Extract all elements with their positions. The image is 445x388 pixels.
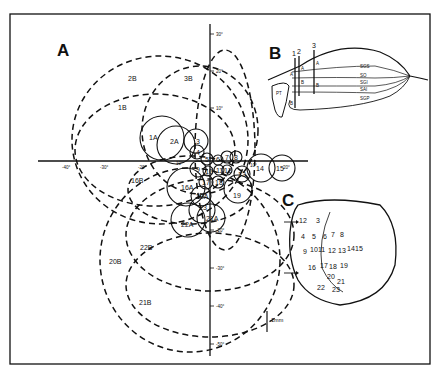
- field-label: 16B: [131, 177, 144, 184]
- tectum-bottom: [289, 76, 410, 110]
- track-label: 1: [292, 50, 296, 57]
- field-label: 16A: [181, 184, 194, 191]
- site-label: 6: [323, 233, 327, 240]
- field-label: 22B: [140, 244, 153, 251]
- track-label: 3: [312, 42, 316, 49]
- site-label: 2: [303, 217, 307, 224]
- field-label: 20A: [196, 193, 209, 200]
- pt-label: PT: [276, 91, 282, 96]
- site-mark: B: [290, 101, 293, 106]
- field-label: 1A: [149, 134, 158, 141]
- site-label: 3: [316, 217, 320, 224]
- site-label: 17: [320, 262, 328, 269]
- field-label: 22A: [181, 221, 194, 228]
- panel-c: C 1 2 3 4 5 6 7 8 9 10 11 12 13 14 15 16…: [267, 191, 396, 332]
- field-label: 6: [216, 156, 220, 163]
- field-label: 2A: [170, 138, 179, 145]
- site-label: 20: [327, 273, 335, 280]
- layer-label: SGI: [360, 80, 368, 85]
- scale-bar-label: 1mm: [271, 317, 284, 323]
- layer-label: SO: [360, 73, 367, 78]
- field-label: 21B: [139, 299, 152, 306]
- field-label: 15: [276, 165, 284, 172]
- site-label: 15: [355, 245, 363, 252]
- layer-label: SGP: [360, 96, 370, 101]
- field-label: 5: [205, 156, 209, 163]
- field-label: 11: [216, 167, 223, 174]
- y-tick: 30°: [216, 32, 223, 37]
- field-label: 9: [196, 166, 200, 173]
- y-tick: 10°: [216, 106, 223, 111]
- x-tick: -40°: [62, 165, 71, 170]
- layer-sgs-line: [292, 66, 410, 76]
- layer-label: SAI: [360, 87, 367, 92]
- field-label: 23: [199, 204, 207, 211]
- panel-a: A -40° -30° -20° 10° 10° 20° 30° 20° 10°…: [38, 24, 308, 356]
- x-tick: -30°: [100, 165, 109, 170]
- field-2B: [72, 56, 248, 224]
- site-label: 21: [337, 278, 345, 285]
- field-label: 20B: [109, 258, 122, 265]
- layer-sai-line: [292, 76, 410, 93]
- layer-label: SGS: [360, 64, 370, 69]
- panel-b-letter: B: [269, 44, 281, 63]
- field-label: 1B: [118, 104, 127, 111]
- field-label: 7: [225, 154, 229, 161]
- panel-b: B PT 1 2 3 A A A B B B SGS SO SGI SAI SG…: [268, 42, 428, 117]
- site-label: 9: [303, 248, 307, 255]
- site-mark: A: [301, 66, 304, 71]
- pt-structure: [272, 83, 289, 117]
- field-label: 4: [196, 149, 200, 156]
- small-receptive-fields: 1A 2A 3 4 5 6 7 8 9 10 11 12 13 14 15 16…: [140, 116, 295, 237]
- panel-c-letter: C: [282, 191, 294, 210]
- site-label: 13: [338, 247, 346, 254]
- field-label: 10: [205, 168, 213, 175]
- field-label: 17: [202, 179, 210, 186]
- track-label: 2: [297, 48, 301, 55]
- site-label: 19: [340, 262, 348, 269]
- site-label: 23: [332, 286, 340, 293]
- site-label: 14: [347, 245, 355, 252]
- site-label: 4: [301, 233, 305, 240]
- receptive-field-figure: A -40° -30° -20° 10° 10° 20° 30° 20° 10°…: [0, 0, 445, 388]
- arrow-lower-head: [296, 271, 299, 275]
- field-label: 8: [234, 154, 238, 161]
- field-label: 13: [238, 171, 246, 178]
- field-label: 12: [224, 167, 232, 174]
- site-label: 8: [340, 231, 344, 238]
- site-mark: B: [301, 80, 304, 85]
- y-tick: -40°: [216, 304, 225, 309]
- site-label: 10: [310, 246, 318, 253]
- site-label: 16: [308, 264, 316, 271]
- panel-a-letter: A: [57, 41, 69, 60]
- field-1B: [75, 94, 235, 206]
- field-label: 21A: [206, 215, 219, 222]
- field-label: 19: [233, 192, 241, 199]
- site-mark: A: [316, 61, 319, 66]
- large-receptive-fields: 2B 3B 1B 16B 20B 22B 21B: [72, 50, 294, 352]
- field-20B: [100, 168, 280, 352]
- field-label: 2B: [128, 75, 137, 82]
- site-mark: A: [290, 72, 293, 77]
- layer-so-line: [292, 76, 410, 78]
- field-label: 14: [256, 165, 264, 172]
- site-label: 7: [331, 231, 335, 238]
- site-mark: B: [316, 83, 319, 88]
- site-label: 12: [328, 247, 336, 254]
- site-label: 18: [329, 263, 337, 270]
- y-tick: -30°: [216, 266, 225, 271]
- field-label: 3: [196, 138, 200, 145]
- field-label: 3B: [184, 75, 193, 82]
- site-label: 5: [312, 233, 316, 240]
- field-label: 18: [215, 179, 223, 186]
- site-label: 11: [318, 246, 325, 253]
- site-label: 22: [317, 284, 325, 291]
- x-tick: 20°: [283, 165, 290, 170]
